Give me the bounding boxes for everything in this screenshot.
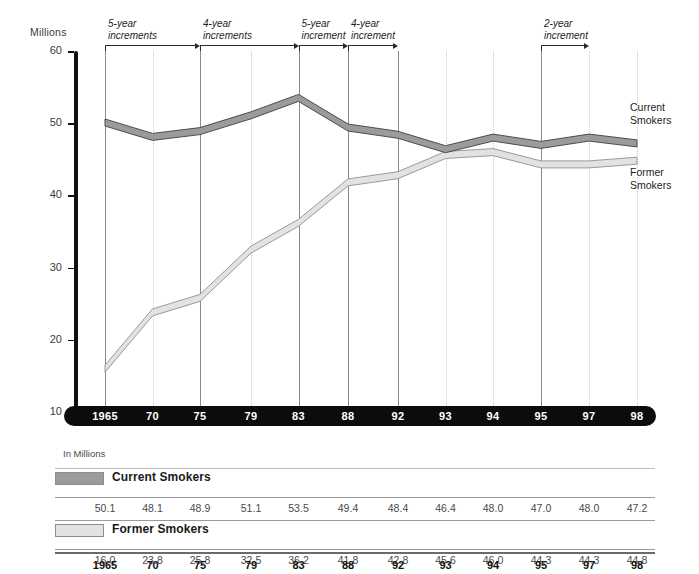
callout-current-line1: Current: [630, 101, 671, 114]
table-row-label-former-smokers: Former Smokers: [112, 522, 209, 536]
table-cell-year-97: 97: [583, 559, 595, 571]
legend-swatch-former-smokers: [55, 524, 104, 537]
x-axis-label-92: 92: [392, 406, 405, 426]
table-cell-current-smokers-1965: 50.1: [95, 502, 115, 514]
y-tick-label-30: 30: [28, 261, 62, 273]
y-tick-label-20: 20: [28, 333, 62, 345]
ribbon-svg: [78, 51, 656, 412]
plot-area: [78, 51, 656, 412]
x-axis-label-88: 88: [342, 406, 355, 426]
y-tick-label-40: 40: [28, 188, 62, 200]
table-cell-current-smokers-83: 53.5: [288, 502, 308, 514]
x-axis-label-70: 70: [146, 406, 159, 426]
table-cell-current-smokers-94: 48.0: [483, 502, 503, 514]
callout-former-line2: Smokers: [630, 179, 671, 192]
x-axis-label-95: 95: [535, 406, 548, 426]
table-cell-current-smokers-70: 48.1: [142, 502, 162, 514]
series-callout-current-smokers: Current Smokers: [630, 101, 671, 126]
x-axis-bar: 19657075798388929394959798: [64, 406, 656, 426]
x-axis-label-97: 97: [583, 406, 596, 426]
y-tick-mark-40: [68, 195, 74, 197]
table-cell-year-88: 88: [342, 559, 354, 571]
y-tick-label-50: 50: [28, 116, 62, 128]
table-cell-current-smokers-92: 48.4: [388, 502, 408, 514]
table-cell-year-83: 83: [292, 559, 304, 571]
table-cell-year-92: 92: [392, 559, 404, 571]
table-rule-1: [55, 497, 655, 498]
y-tick-mark-20: [68, 340, 74, 342]
callout-current-line2: Smokers: [630, 114, 671, 127]
table-cell-year-1965: 1965: [93, 559, 117, 571]
y-axis-title: Millions: [30, 26, 67, 38]
table-cell-year-98: 98: [631, 559, 643, 571]
table-cell-current-smokers-93: 46.4: [435, 502, 455, 514]
table-cell-current-smokers-97: 48.0: [579, 502, 599, 514]
table-rule-2: [55, 520, 655, 521]
y-tick-label-10: 10: [28, 405, 62, 417]
table-rule-top: [55, 468, 655, 469]
chart-canvas: Millions 605040302010 Current Smokers Fo…: [0, 0, 699, 435]
y-tick-mark-60: [68, 51, 74, 53]
series-ribbons: [78, 51, 656, 412]
units-label: In Millions: [63, 448, 105, 459]
x-axis-label-79: 79: [245, 406, 258, 426]
table-rule-3: [55, 549, 655, 550]
table-cell-current-smokers-98: 47.2: [627, 502, 647, 514]
x-axis-label-93: 93: [439, 406, 452, 426]
x-axis-label-75: 75: [194, 406, 207, 426]
x-axis-label-83: 83: [292, 406, 305, 426]
data-table: In Millions Current Smokers 50.148.148.9…: [0, 436, 699, 574]
table-cell-year-70: 70: [146, 559, 158, 571]
table-cell-year-95: 95: [535, 559, 547, 571]
x-axis-label-98: 98: [631, 406, 644, 426]
table-cell-current-smokers-79: 51.1: [241, 502, 261, 514]
series-callout-former-smokers: Former Smokers: [630, 166, 671, 191]
table-cell-year-94: 94: [487, 559, 499, 571]
legend-swatch-current-smokers: [55, 472, 104, 485]
table-cell-current-smokers-88: 49.4: [338, 502, 358, 514]
y-tick-mark-50: [68, 123, 74, 125]
y-tick-label-60: 60: [28, 44, 62, 56]
table-cell-year-75: 75: [194, 559, 206, 571]
table-row-label-current-smokers: Current Smokers: [112, 470, 211, 484]
table-rule-bottom: [55, 552, 655, 554]
chart-page: 5-yearincrements4-yearincrements5-yearin…: [0, 0, 699, 574]
x-axis-label-1965: 1965: [92, 406, 118, 426]
table-cell-year-79: 79: [245, 559, 257, 571]
callout-former-line1: Former: [630, 166, 671, 179]
ribbon-current-smokers: [105, 94, 637, 152]
y-tick-mark-30: [68, 268, 74, 270]
table-cell-current-smokers-95: 47.0: [531, 502, 551, 514]
x-axis-label-94: 94: [487, 406, 500, 426]
table-cell-current-smokers-75: 48.9: [190, 502, 210, 514]
table-cell-year-93: 93: [439, 559, 451, 571]
ribbon-former-smokers: [105, 149, 637, 373]
